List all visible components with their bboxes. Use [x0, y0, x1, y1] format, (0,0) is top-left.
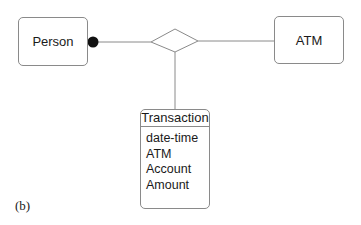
entity-person[interactable]: Person — [18, 17, 88, 66]
participation-dot-icon — [88, 37, 99, 48]
relationship-diamond[interactable] — [151, 29, 198, 52]
attribute-amount: Amount — [146, 178, 209, 194]
entity-transaction-title: Transaction — [141, 110, 209, 127]
attribute-account: Account — [146, 162, 209, 178]
entity-transaction-attributes: date-time ATM Account Amount — [141, 127, 209, 193]
entity-atm[interactable]: ATM — [274, 16, 344, 64]
attribute-atm: ATM — [146, 147, 209, 163]
attribute-date-time: date-time — [146, 131, 209, 147]
entity-person-label: Person — [32, 34, 73, 49]
entity-transaction[interactable]: Transaction date-time ATM Account Amount — [140, 109, 210, 209]
figure-caption: (b) — [15, 198, 30, 214]
entity-atm-label: ATM — [296, 33, 322, 48]
